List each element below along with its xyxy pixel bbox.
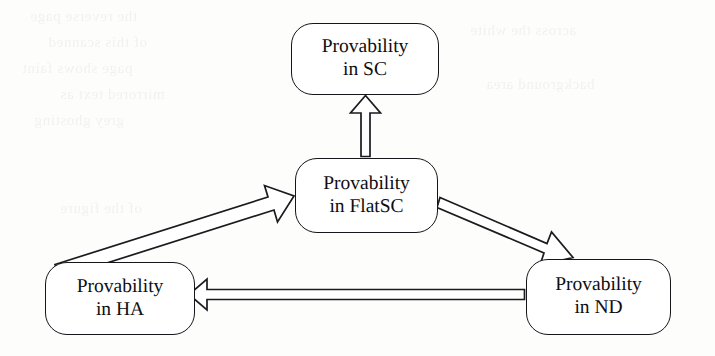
node-provability-in-nd[interactable]: Provability in ND bbox=[526, 259, 671, 335]
node-ha-line2: in HA bbox=[96, 299, 144, 322]
node-nd-line2: in ND bbox=[574, 297, 622, 320]
edge-flatsc-to-sc bbox=[351, 96, 381, 157]
node-flatsc-line2: in FlatSC bbox=[329, 196, 403, 219]
node-provability-in-sc[interactable]: Provability in SC bbox=[291, 23, 439, 95]
node-provability-in-ha[interactable]: Provability in HA bbox=[45, 262, 195, 335]
provability-diagram: the reverse page of this scanned page sh… bbox=[0, 0, 715, 356]
node-sc-line2: in SC bbox=[343, 59, 387, 82]
edge-nd-to-ha bbox=[189, 279, 525, 310]
node-sc-line1: Provability bbox=[322, 36, 409, 59]
node-ha-line1: Provability bbox=[77, 276, 164, 299]
edge-flatsc-to-nd bbox=[437, 198, 573, 266]
node-nd-line1: Provability bbox=[555, 274, 642, 297]
node-flatsc-line1: Provability bbox=[323, 173, 410, 196]
node-provability-in-flatsc[interactable]: Provability in FlatSC bbox=[295, 158, 438, 233]
